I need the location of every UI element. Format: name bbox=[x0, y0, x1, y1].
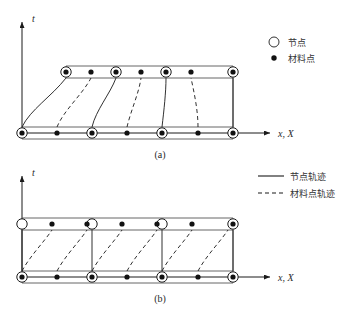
legend-node-trajectory-label: 节点轨迹 bbox=[290, 171, 326, 182]
panel-a-top-row-markers bbox=[61, 67, 238, 77]
panel-a-node-trajectories bbox=[22, 78, 233, 127]
node-trajectory bbox=[22, 78, 66, 127]
material-point-marker bbox=[138, 69, 143, 74]
legend-node-label: 节点 bbox=[288, 38, 306, 48]
node-marker bbox=[111, 67, 121, 77]
panel-b-mesh-bands bbox=[22, 218, 233, 283]
material-trajectory bbox=[127, 78, 141, 127]
material-point-marker bbox=[189, 221, 194, 226]
material-point-marker bbox=[188, 69, 193, 74]
node-marker bbox=[87, 128, 97, 138]
material-trajectory bbox=[162, 230, 192, 271]
material-point-marker bbox=[54, 130, 59, 135]
t-axis-label-b: t bbox=[32, 167, 35, 178]
material-trajectory bbox=[127, 230, 157, 271]
panel-caption-a: (a) bbox=[154, 149, 165, 161]
legend-material-label: 材料点 bbox=[288, 53, 315, 64]
node-marker bbox=[228, 272, 238, 282]
node-marker bbox=[87, 272, 97, 282]
legend-material-trajectory-label: 材料点轨迹 bbox=[290, 188, 335, 199]
node-marker bbox=[228, 219, 238, 229]
node-marker bbox=[61, 67, 71, 77]
material-point-marker bbox=[88, 69, 93, 74]
material-point-marker bbox=[195, 274, 200, 279]
material-trajectory bbox=[57, 230, 87, 271]
t-axis-label-a: t bbox=[32, 13, 35, 24]
material-point-marker bbox=[54, 274, 59, 279]
node-marker bbox=[157, 128, 167, 138]
panel-b-material-trajectories bbox=[22, 230, 228, 271]
node-trajectory bbox=[162, 78, 166, 127]
material-trajectory bbox=[57, 78, 91, 127]
node-marker bbox=[157, 272, 167, 282]
node-marker bbox=[161, 67, 171, 77]
x-axis-label-a: x, X bbox=[277, 128, 294, 139]
material-point-marker bbox=[195, 130, 200, 135]
panel-a-material-trajectories bbox=[57, 78, 198, 127]
figure-root: t x, X bbox=[0, 0, 343, 314]
mesh-motion-diagram: t x, X bbox=[0, 0, 343, 314]
node-marker bbox=[228, 128, 238, 138]
node-marker bbox=[17, 272, 27, 282]
node-marker bbox=[17, 219, 27, 229]
line-legend: 节点轨迹 材料点轨迹 bbox=[258, 171, 335, 199]
ale-panel: t x, X bbox=[17, 167, 295, 305]
material-point-marker bbox=[124, 274, 129, 279]
material-trajectory bbox=[92, 230, 122, 271]
material-point-marker bbox=[124, 130, 129, 135]
material-point-marker bbox=[49, 221, 54, 226]
x-axis-label-b: x, X bbox=[277, 272, 294, 283]
material-trajectory bbox=[198, 230, 228, 271]
material-trajectory bbox=[22, 230, 52, 271]
lagrangian-panel: t x, X bbox=[17, 13, 295, 161]
panel-b-top-row-markers bbox=[17, 219, 238, 229]
node-marker bbox=[17, 128, 27, 138]
legend-material-symbol bbox=[271, 55, 276, 60]
panel-caption-b: (b) bbox=[154, 293, 166, 305]
material-trajectory bbox=[191, 78, 198, 127]
legend-node-symbol bbox=[269, 37, 279, 47]
material-point-marker bbox=[119, 221, 124, 226]
marker-legend: 节点 材料点 bbox=[269, 37, 315, 64]
node-marker bbox=[228, 67, 238, 77]
node-trajectory bbox=[92, 78, 116, 127]
panel-a-mesh-bands bbox=[22, 66, 233, 139]
